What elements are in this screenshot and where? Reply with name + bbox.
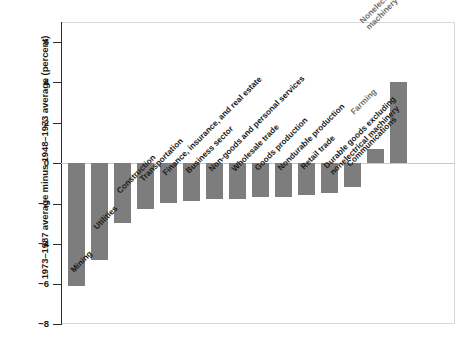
y-tick-label-0: 0: [9, 158, 49, 168]
y-axis-line: [61, 22, 62, 324]
y-tick-label-6: 6: [9, 37, 49, 47]
y-tick-label-neg8: −8: [9, 319, 49, 329]
y-tick-label-neg2: −2: [9, 199, 49, 209]
y-tick-2: [53, 123, 62, 124]
y-tick-label-neg4: −4: [9, 239, 49, 249]
y-tick-4: [53, 82, 62, 83]
y-tick-neg2: [53, 204, 62, 205]
y-tick-label-neg6: −6: [9, 279, 49, 289]
y-tick-label-2: 2: [9, 118, 49, 128]
y-tick-label-4: 4: [9, 77, 49, 87]
bar-farming: [367, 149, 384, 163]
y-tick-6: [53, 42, 62, 43]
y-tick-neg4: [53, 244, 62, 245]
y-tick-neg8: [53, 324, 62, 325]
bar-chart: 1973–1987 average minus 1948–1973 averag…: [0, 0, 457, 343]
y-tick-neg6: [53, 284, 62, 285]
